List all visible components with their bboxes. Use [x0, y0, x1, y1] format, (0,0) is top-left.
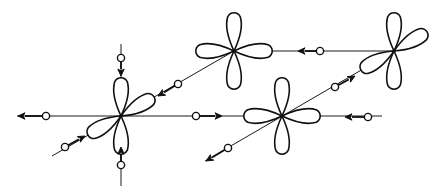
displacement-arrow: [206, 144, 232, 161]
displacement-arrow: [345, 113, 372, 120]
orbital-lobe: [234, 44, 272, 59]
atom-nucleus: [119, 114, 123, 118]
position-circle: [224, 144, 231, 151]
orbital-lobe: [196, 44, 234, 59]
position-circle: [42, 112, 49, 119]
atom-nucleus: [392, 49, 396, 53]
position-circle: [316, 47, 323, 54]
atom-B-orbital: [196, 13, 272, 89]
position-circle: [192, 112, 199, 119]
displacement-arrow: [18, 112, 50, 119]
position-circle: [174, 80, 181, 87]
position-circle: [364, 113, 371, 120]
orbital-lobe: [244, 109, 282, 124]
orbital-lobe: [275, 116, 290, 154]
orbital-diagram: [0, 0, 444, 195]
orbital-lobe: [227, 13, 242, 51]
displacement-arrow: [61, 136, 85, 151]
displacement-arrows: [18, 47, 372, 168]
orbital-atoms: [84, 13, 431, 154]
position-circle: [117, 54, 124, 61]
orbital-lobe: [275, 78, 290, 116]
position-circle: [117, 161, 124, 168]
atom-D-orbital: [244, 78, 320, 154]
orbital-lobe: [282, 109, 320, 124]
atom-nucleus: [280, 114, 284, 118]
position-circle: [61, 143, 68, 150]
bond-lines: [17, 44, 394, 186]
displacement-arrow: [192, 112, 222, 119]
arrowhead-icon: [345, 114, 352, 120]
displacement-arrow: [298, 47, 324, 54]
displacement-arrow: [158, 80, 182, 96]
displacement-arrow: [331, 76, 355, 91]
atom-nucleus: [232, 49, 236, 53]
displacement-arrow: [117, 54, 124, 76]
orbital-lobe: [227, 51, 242, 89]
position-circle: [331, 83, 338, 90]
